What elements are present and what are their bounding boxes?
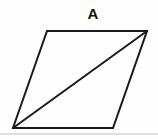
- figure-canvas: A: [0, 0, 158, 139]
- parallelogram-figure: [0, 0, 158, 139]
- parallelogram-diagonal-line: [13, 31, 147, 128]
- scan-edge-line: [0, 133, 158, 135]
